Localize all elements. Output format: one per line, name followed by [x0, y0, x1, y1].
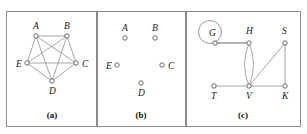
vertex-label-D: D — [137, 88, 145, 98]
vertex-label-A: A — [121, 23, 128, 33]
panel-c: GHSTVK(c) — [187, 12, 301, 127]
vertex-node-C[interactable] — [74, 61, 78, 65]
vertex-node-A[interactable] — [123, 36, 127, 40]
vertex-label-D: D — [48, 86, 56, 96]
edge-H-V — [245, 43, 250, 86]
figure-canvas: ABCDE(a)ABCDE(b)GHSTVK(c) — [0, 0, 307, 134]
vertex-label-B: B — [64, 21, 70, 31]
edge-B-D — [52, 36, 67, 81]
vertex-node-T[interactable] — [212, 84, 216, 88]
panel-caption-a: (a) — [47, 110, 58, 120]
panel-b: ABCDE(b) — [98, 12, 186, 127]
edge-H-V — [249, 43, 254, 86]
vertex-node-D[interactable] — [50, 79, 54, 83]
vertex-label-C: C — [82, 59, 89, 69]
vertex-node-D[interactable] — [139, 81, 143, 85]
vertex-node-B[interactable] — [65, 34, 69, 38]
vertex-label-K: K — [281, 91, 289, 101]
vertex-label-V: V — [246, 91, 253, 101]
vertex-node-C[interactable] — [160, 63, 164, 67]
vertex-node-H[interactable] — [247, 41, 251, 45]
vertex-label-T: T — [211, 91, 217, 101]
vertex-label-S: S — [282, 26, 287, 36]
vertex-label-A: A — [32, 21, 39, 31]
panel-caption-b: (b) — [136, 110, 147, 120]
vertex-node-V[interactable] — [247, 84, 251, 88]
vertex-node-B[interactable] — [153, 36, 157, 40]
edge-S-V — [249, 43, 285, 86]
panel-a: ABCDE(a) — [7, 12, 97, 127]
vertex-node-K[interactable] — [283, 84, 287, 88]
vertex-label-C: C — [168, 61, 175, 71]
vertex-label-E: E — [105, 61, 112, 71]
vertex-node-S[interactable] — [283, 41, 287, 45]
graph-figure: ABCDE(a)ABCDE(b)GHSTVK(c) — [0, 0, 307, 134]
edge-B-E — [27, 36, 67, 63]
vertex-label-E: E — [15, 59, 22, 69]
vertex-label-B: B — [152, 23, 158, 33]
vertex-node-E[interactable] — [115, 63, 119, 67]
edge-C-D — [52, 63, 76, 81]
edge-A-E — [27, 36, 36, 63]
edge-A-D — [36, 36, 52, 81]
vertex-node-A[interactable] — [34, 34, 38, 38]
vertex-label-H: H — [245, 26, 254, 36]
panel-caption-c: (c) — [238, 110, 248, 120]
vertex-node-G[interactable] — [213, 41, 217, 45]
vertex-node-E[interactable] — [25, 61, 29, 65]
edge-B-C — [67, 36, 76, 63]
edge-A-C — [36, 36, 76, 63]
vertex-label-G: G — [209, 28, 216, 38]
edge-D-E — [27, 63, 52, 81]
